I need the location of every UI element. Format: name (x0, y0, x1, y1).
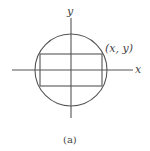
y-axis-label: y (66, 5, 74, 18)
circle-rectangle-diagram: y x (x, y) (a) (0, 0, 150, 151)
x-axis-label: x (135, 63, 142, 76)
figure-caption: (a) (63, 134, 77, 145)
point-label: (x, y) (105, 42, 133, 55)
